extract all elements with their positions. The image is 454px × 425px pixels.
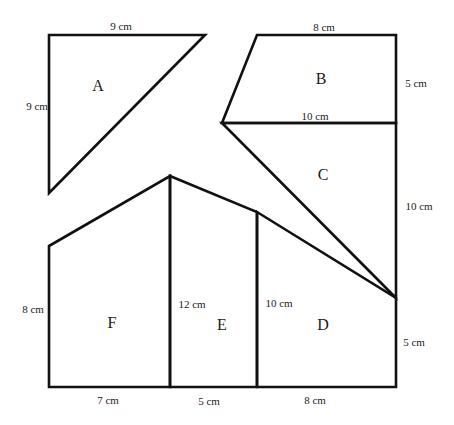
shape-e-label: E bbox=[217, 316, 227, 333]
dim-a-left: 9 cm bbox=[26, 100, 48, 112]
dim-d-bottom: 8 cm bbox=[304, 394, 326, 406]
composite-shapes-diagram: A B C D E F 9 cm 9 cm 8 cm 5 cm 10 cm 10… bbox=[0, 0, 454, 425]
dim-e-bottom: 5 cm bbox=[198, 395, 220, 407]
dim-a-top: 9 cm bbox=[110, 20, 132, 32]
dim-d-left: 10 cm bbox=[265, 297, 293, 309]
shape-a-label: A bbox=[92, 77, 104, 94]
shape-c-triangle bbox=[222, 123, 396, 298]
dim-f-bottom: 7 cm bbox=[97, 394, 119, 406]
shape-f-label: F bbox=[108, 314, 117, 331]
dim-c-right: 10 cm bbox=[405, 200, 433, 212]
shape-c-label: C bbox=[318, 166, 329, 183]
dim-e-left: 12 cm bbox=[178, 298, 206, 310]
shape-b-label: B bbox=[316, 70, 327, 87]
dim-b-bottom: 10 cm bbox=[301, 110, 329, 122]
dim-b-top: 8 cm bbox=[313, 21, 335, 33]
shape-f-pentagon bbox=[49, 176, 170, 387]
dim-f-left: 8 cm bbox=[22, 303, 44, 315]
shape-e-trapezium bbox=[170, 176, 257, 387]
dim-b-right: 5 cm bbox=[405, 77, 427, 89]
shape-a-triangle bbox=[49, 35, 205, 193]
shape-d-label: D bbox=[317, 316, 329, 333]
dim-d-right: 5 cm bbox=[403, 336, 425, 348]
